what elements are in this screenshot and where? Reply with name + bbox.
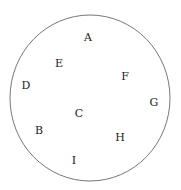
label-c: C [75, 107, 83, 120]
diagram-canvas: A E F D G C B H I [0, 0, 181, 190]
point-labels: A E F D G C B H I [22, 31, 159, 167]
label-d: D [22, 79, 31, 92]
label-g: G [150, 96, 159, 109]
label-f: F [121, 70, 129, 83]
label-b: B [35, 124, 43, 137]
label-h: H [115, 131, 125, 144]
label-i: I [72, 154, 76, 167]
label-a: A [83, 31, 93, 44]
label-e: E [55, 57, 63, 70]
